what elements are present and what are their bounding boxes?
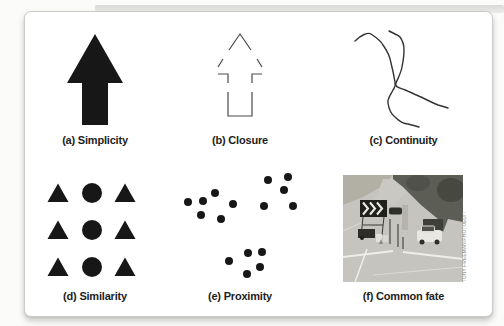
circle-shape bbox=[82, 183, 102, 203]
proximity-dot bbox=[229, 200, 237, 208]
panel-common-fate: TONY FREEMAN/PHOTOEDIT (f) Common fate bbox=[315, 162, 492, 312]
panel-continuity: (c) Continuity bbox=[315, 20, 492, 160]
proximity-dot bbox=[243, 270, 251, 278]
figure-card: (a) Simplicity (b) Closure (c) Continuit… bbox=[24, 11, 493, 317]
panel-similarity: (d) Similarity bbox=[25, 162, 165, 312]
caption-common-fate: (f) Common fate bbox=[315, 290, 492, 302]
proximity-dot bbox=[225, 257, 233, 265]
caption-closure: (b) Closure bbox=[165, 134, 315, 146]
triangle-shape bbox=[48, 184, 69, 203]
proximity-dot bbox=[184, 198, 192, 206]
caption-similarity: (d) Similarity bbox=[25, 290, 165, 302]
traffic-photo bbox=[343, 175, 463, 282]
panel-closure: (b) Closure bbox=[165, 20, 315, 160]
proximity-dot bbox=[244, 249, 252, 257]
proximity-dot bbox=[280, 186, 288, 194]
outline-arrow-icon bbox=[212, 30, 268, 120]
proximity-dot bbox=[260, 202, 268, 210]
proximity-dot bbox=[256, 263, 264, 271]
caption-proximity: (e) Proximity bbox=[165, 290, 315, 302]
triangle-shape bbox=[115, 258, 136, 277]
photo-credit: TONY FREEMAN/PHOTOEDIT bbox=[462, 175, 468, 282]
proximity-dot bbox=[264, 176, 272, 184]
triangle-shape bbox=[48, 258, 69, 277]
triangle-shape bbox=[115, 184, 136, 203]
similarity-grid-icon bbox=[25, 162, 165, 284]
proximity-dot bbox=[258, 248, 266, 256]
triangle-shape bbox=[115, 221, 136, 240]
proximity-dots-icon bbox=[165, 162, 315, 284]
proximity-dot bbox=[289, 202, 297, 210]
crossing-curves-icon bbox=[343, 25, 458, 130]
proximity-dot bbox=[199, 197, 207, 205]
circle-shape bbox=[82, 257, 102, 277]
panel-proximity: (e) Proximity bbox=[165, 162, 315, 312]
caption-simplicity: (a) Simplicity bbox=[25, 134, 165, 146]
solid-arrow-icon bbox=[67, 32, 123, 126]
circle-shape bbox=[82, 220, 102, 240]
proximity-dot bbox=[284, 173, 292, 181]
triangle-shape bbox=[48, 221, 69, 240]
proximity-dot bbox=[197, 211, 205, 219]
proximity-dot bbox=[211, 189, 219, 197]
panel-simplicity: (a) Simplicity bbox=[25, 20, 165, 160]
caption-continuity: (c) Continuity bbox=[315, 134, 492, 146]
proximity-dot bbox=[217, 215, 225, 223]
